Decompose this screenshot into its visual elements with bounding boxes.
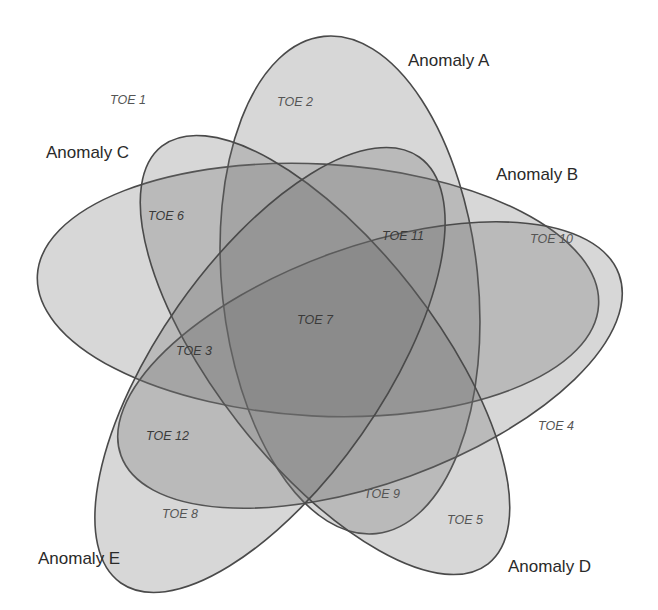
set-label-e: Anomaly E: [38, 549, 120, 568]
region-label-toe4: TOE 4: [538, 419, 574, 433]
region-label-toe12: TOE 12: [146, 429, 189, 443]
set-label-a: Anomaly A: [408, 51, 490, 70]
region-label-toe2: TOE 2: [277, 95, 313, 109]
region-label-toe11: TOE 11: [382, 229, 424, 243]
set-label-b: Anomaly B: [496, 165, 578, 184]
region-label-toe1: TOE 1: [110, 93, 146, 107]
region-label-toe6: TOE 6: [148, 209, 184, 223]
region-label-toe3: TOE 3: [176, 344, 212, 358]
set-label-d: Anomaly D: [508, 557, 591, 576]
region-label-toe8: TOE 8: [162, 507, 198, 521]
region-label-toe5: TOE 5: [447, 513, 483, 527]
region-label-toe10: TOE 10: [530, 232, 573, 246]
venn-diagram: Anomaly A Anomaly B Anomaly C Anomaly D …: [0, 0, 658, 610]
region-label-toe9: TOE 9: [364, 487, 400, 501]
set-label-c: Anomaly C: [46, 143, 129, 162]
region-label-toe7: TOE 7: [297, 313, 334, 327]
